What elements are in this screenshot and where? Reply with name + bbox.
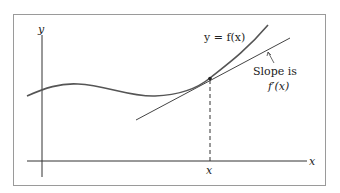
y-axis-label: y (37, 23, 45, 36)
x-axis-label: x (309, 155, 316, 168)
diagram-canvas: y = f(x) Slope is f′(x) y x x (0, 0, 340, 193)
tangency-point (208, 77, 212, 81)
frame (14, 15, 326, 186)
label-pointer (268, 52, 274, 63)
curve-label: y = f(x) (203, 31, 245, 44)
x-tick-label: x (206, 164, 213, 177)
tangent-label-line2: f′(x) (267, 80, 289, 93)
tangent-line (136, 38, 290, 120)
tangent-label-line1: Slope is (253, 65, 297, 78)
